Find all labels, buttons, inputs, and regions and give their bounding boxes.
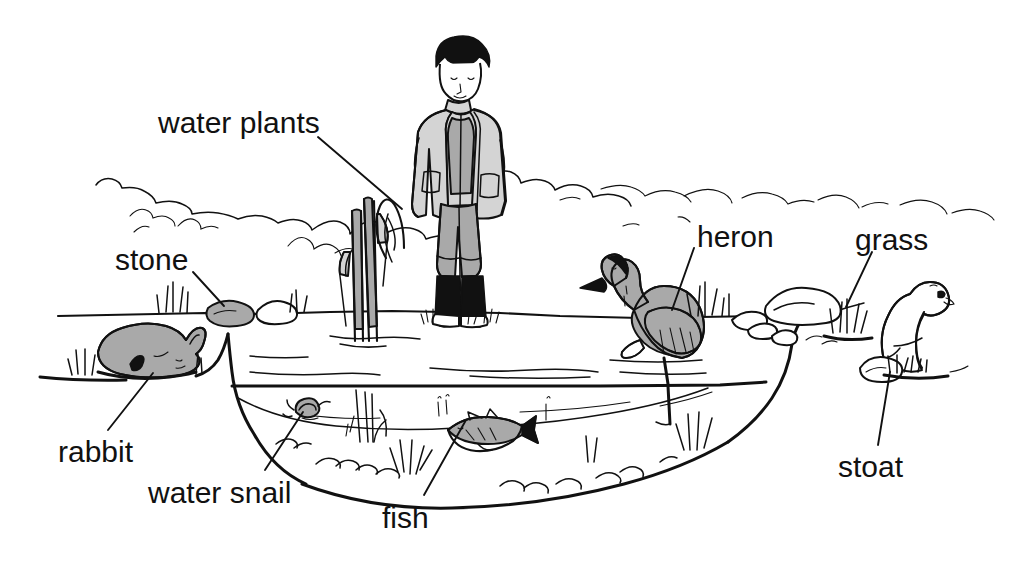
label-fish: fish	[382, 503, 429, 533]
label-water-plants: water plants	[158, 108, 320, 138]
leader-water-plants	[318, 137, 402, 209]
label-water-snail: water snail	[148, 478, 291, 508]
leader-water-snail	[265, 412, 303, 470]
fish-icon	[438, 395, 550, 452]
label-stoat: stoat	[838, 452, 903, 482]
label-grass: grass	[855, 225, 928, 255]
heron-icon	[580, 254, 704, 424]
stone-icon	[206, 301, 297, 327]
rabbit-icon	[40, 323, 206, 380]
leader-stone	[193, 272, 224, 306]
label-heron: heron	[697, 222, 774, 252]
water-plants-icon	[330, 198, 420, 443]
leader-grass	[846, 252, 872, 307]
leader-fish	[424, 420, 466, 495]
label-stone: stone	[115, 245, 188, 275]
person-figure	[412, 36, 506, 327]
label-rabbit: rabbit	[58, 437, 133, 467]
stoat-icon	[860, 282, 968, 382]
pond-diagram: .ink{fill:none;stroke:#111;stroke-width:…	[0, 0, 1019, 564]
